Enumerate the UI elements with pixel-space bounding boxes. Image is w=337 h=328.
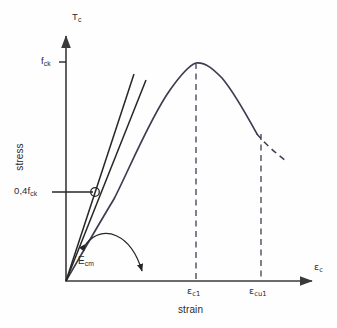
fck-subscript: ck: [44, 60, 51, 67]
y-axis-symbol-subscript: c: [78, 16, 81, 23]
secant-modulus-line: [66, 80, 146, 281]
stress-strain-diagram: Tc fck 0,4fck Ecm εc1 εcu1 εc strain str…: [0, 0, 337, 328]
ecm-angle-arc: [86, 233, 142, 271]
y-tick-label-fck: fck: [41, 56, 51, 66]
x-axis-symbol-label: εc: [314, 262, 323, 272]
ecm-label: Ecm: [78, 256, 94, 266]
plot-canvas: [0, 0, 337, 328]
stress-strain-curve: [66, 63, 257, 281]
y-axis-symbol-label: Tc: [72, 12, 81, 22]
fck04-subscript: ck: [30, 190, 37, 197]
ecm-base: E: [78, 255, 85, 266]
x-tick-label-eps-cu1: εcu1: [249, 286, 267, 296]
x-tick-label-eps-c1: εc1: [187, 286, 200, 296]
eps-c1-subscript: c1: [192, 290, 200, 298]
y-tick-label-04fck: 0,4fck: [14, 186, 37, 196]
y-axis-name-label: stress: [15, 127, 25, 187]
x-axis-name-label: strain: [178, 305, 203, 315]
ecm-subscript: cm: [85, 260, 94, 267]
x-axis-symbol-subscript: c: [319, 266, 323, 274]
eps-cu1-subscript: cu1: [254, 290, 266, 298]
